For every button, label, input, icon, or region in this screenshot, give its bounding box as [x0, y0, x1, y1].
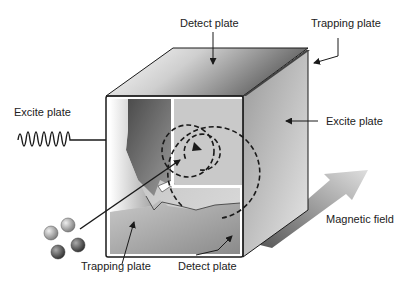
inner-back-panel: [174, 99, 242, 185]
icr-cell-diagram: [0, 0, 413, 284]
label-excite-plate-left: Excite plate: [14, 107, 71, 118]
excite-waveform: [18, 132, 106, 146]
label-trapping-plate-bottom: Trapping plate: [81, 261, 151, 272]
trapping-plate-top-leader: [314, 38, 338, 63]
label-excite-plate-right: Excite plate: [326, 116, 383, 127]
label-detect-plate-bottom: Detect plate: [178, 261, 237, 272]
ions: [44, 218, 85, 259]
label-trapping-plate-top: Trapping plate: [311, 18, 381, 29]
label-detect-plate-top: Detect plate: [180, 18, 239, 29]
label-magnetic-field: Magnetic field: [326, 214, 394, 225]
